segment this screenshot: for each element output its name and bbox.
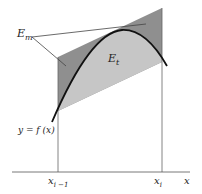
- function-label: y = f (x): [17, 125, 55, 135]
- em-leader-lower: [32, 37, 66, 66]
- em-label: Em: [16, 27, 33, 42]
- x-right-label: xi: [154, 175, 162, 189]
- x-axis-label: x: [184, 175, 190, 186]
- error-band: [52, 0, 168, 130]
- numerical-integration-error-diagram: Em Et y = f (x) xi −1 xi x: [0, 0, 202, 194]
- x-left-label: xi −1: [48, 175, 68, 189]
